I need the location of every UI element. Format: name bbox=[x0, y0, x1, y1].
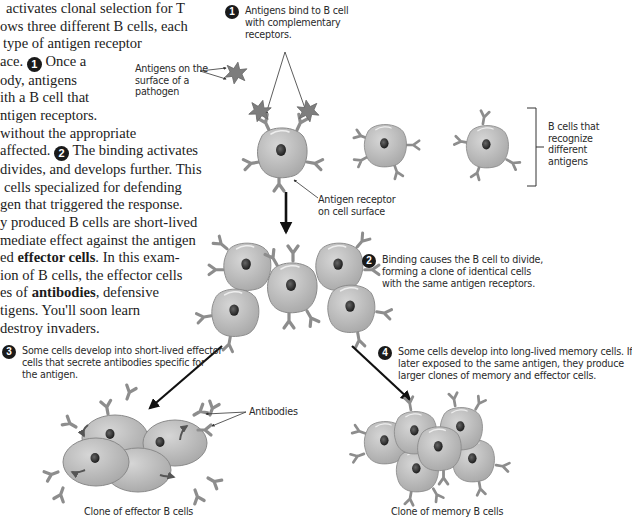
caption-line: Some cells develop into short-lived effe… bbox=[22, 345, 222, 357]
label-line: Antigen receptor bbox=[318, 194, 395, 206]
caption-line: with complementary bbox=[245, 17, 348, 29]
step-number: 3 bbox=[2, 345, 16, 359]
memory-clone bbox=[350, 393, 509, 506]
caption-line: with the same antigen receptors. bbox=[382, 278, 543, 290]
effector-clone bbox=[44, 385, 222, 504]
pathogen-antigen-icon bbox=[224, 60, 248, 85]
label-line: recognize bbox=[548, 133, 599, 145]
step-number: 2 bbox=[362, 254, 376, 268]
label-line: different bbox=[548, 144, 599, 156]
caption-line: later exposed to the same antigen, they … bbox=[398, 358, 632, 370]
label-line: Antigens on the bbox=[135, 63, 208, 75]
b-cell-other bbox=[454, 111, 520, 180]
caption-line: Binding causes the B cell to divide, bbox=[382, 254, 543, 266]
label-effector-clone: Clone of effector B cells bbox=[84, 506, 193, 518]
caption-line: forming a clone of identical cells bbox=[382, 266, 543, 278]
label-line: surface of a bbox=[135, 75, 208, 87]
step-number: 1 bbox=[225, 5, 239, 19]
caption-line: Some cells develop into long-lived memor… bbox=[398, 346, 632, 358]
caption-line: the antigen. bbox=[22, 369, 222, 381]
bracket bbox=[527, 108, 544, 186]
label-memory-clone: Clone of memory B cells bbox=[391, 506, 503, 518]
label-b-cells-recognize: B cells that recognize different antigen… bbox=[548, 121, 599, 167]
step-3-caption: 3 Some cells develop into short-lived ef… bbox=[2, 345, 222, 380]
b-cell-clone bbox=[196, 233, 391, 352]
step-2-caption: 2 Binding causes the B cell to divide, f… bbox=[362, 254, 543, 289]
label-line: antigens bbox=[548, 156, 599, 168]
label-line: on cell surface bbox=[318, 206, 395, 218]
b-cell-selected bbox=[243, 114, 322, 191]
label-antigen-receptor: Antigen receptor on cell surface bbox=[318, 194, 395, 217]
caption-line: larger clones of memory and effector cel… bbox=[398, 370, 632, 382]
label-line: pathogen bbox=[135, 86, 208, 98]
label-antigens-pathogen: Antigens on the surface of a pathogen bbox=[135, 63, 208, 98]
label-line: B cells that bbox=[548, 121, 599, 133]
caption-line: Antigens bind to B cell bbox=[245, 5, 348, 17]
step-1-caption: 1 Antigens bind to B cell with complemen… bbox=[225, 5, 348, 40]
step-number: 4 bbox=[378, 346, 392, 360]
step-4-caption: 4 Some cells develop into long-lived mem… bbox=[378, 346, 632, 381]
caption-line: cells that secrete antibodies specific f… bbox=[22, 357, 222, 369]
b-cell-other bbox=[354, 125, 419, 179]
caption-line: receptors. bbox=[245, 29, 348, 41]
label-antibodies: Antibodies bbox=[249, 406, 298, 418]
